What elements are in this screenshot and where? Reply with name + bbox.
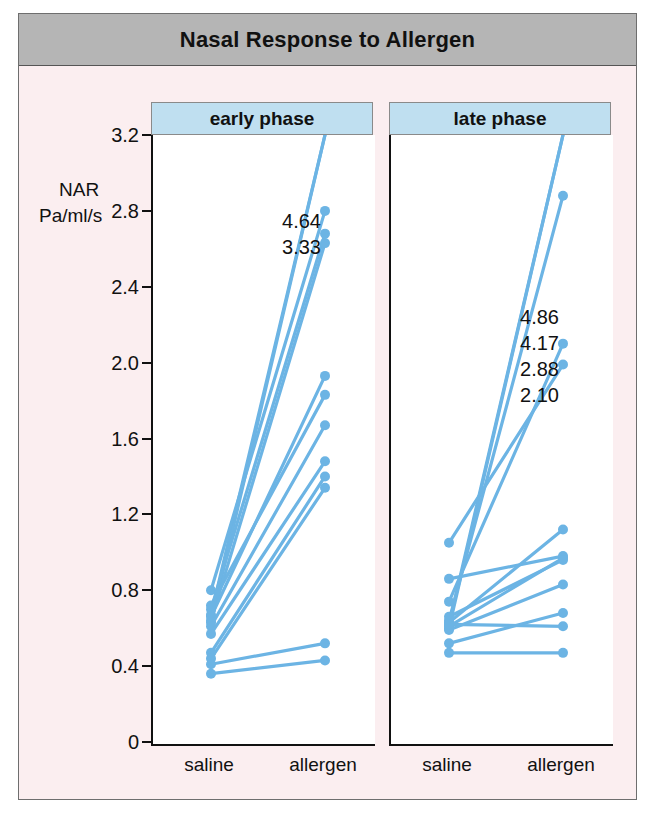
late-phase-offscale-values: 4.864.172.882.10 [520,304,559,408]
panel-early-phase-title: early phase [210,108,315,130]
data-point-saline [206,669,216,679]
y-tick-mark [142,210,151,212]
data-point-allergen [558,621,568,631]
data-point-allergen [320,655,330,665]
data-point-allergen [320,483,330,493]
data-point-allergen [320,390,330,400]
data-point-allergen [558,339,568,349]
y-tick-label: 2.8 [93,199,139,222]
x-tick-saline-late: saline [422,754,472,776]
y-tick-mark [142,741,151,743]
data-point-allergen [320,471,330,481]
offscale-value-label: 4.17 [520,330,559,356]
figure-frame: Nasal Response to Allergen NAR Pa/ml/s 3… [18,13,637,800]
y-tick-label: 1.2 [93,503,139,526]
page-title: Nasal Response to Allergen [180,27,475,53]
y-tick-label: 0 [93,731,139,754]
panel-early-phase-header: early phase [151,102,373,135]
early-phase-offscale-values: 4.643.33 [282,208,321,260]
data-point-allergen [558,525,568,535]
data-point-saline [444,597,454,607]
y-tick-label: 1.6 [93,427,139,450]
panel-late-phase-plot [389,135,613,746]
data-point-saline [206,659,216,669]
y-tick-mark [142,362,151,364]
y-tick-mark [142,134,151,136]
x-tick-allergen-early: allergen [289,754,357,776]
data-point-saline [444,638,454,648]
y-tick-mark [142,665,151,667]
subject-line [211,234,325,610]
plot-area: NAR Pa/ml/s 3.22.82.42.01.61.20.80.40 ea… [19,66,636,800]
subject-line [449,624,563,626]
y-tick-mark [142,286,151,288]
data-point-allergen [320,238,330,248]
data-point-allergen [558,580,568,590]
y-tick-label: 2.0 [93,351,139,374]
y-tick-label: 0.8 [93,579,139,602]
offscale-value-label: 3.33 [282,234,321,260]
panel-early-phase-plot [151,135,375,746]
data-point-saline [444,538,454,548]
subject-line [211,211,325,590]
data-point-saline [444,619,454,629]
data-point-allergen [320,206,330,216]
offscale-value-label: 4.64 [282,208,321,234]
y-axis-tick-labels: 3.22.82.42.01.61.20.80.40 [87,66,139,800]
data-point-allergen [558,555,568,565]
data-point-allergen [320,456,330,466]
data-point-allergen [558,360,568,370]
data-point-saline [444,574,454,584]
data-point-allergen [558,648,568,658]
y-tick-label: 3.2 [93,124,139,147]
data-point-allergen [320,420,330,430]
data-point-saline [444,648,454,658]
panel-late-phase-title: late phase [454,108,547,130]
subject-line [211,425,325,626]
data-point-allergen [558,608,568,618]
subject-line [211,376,325,617]
y-tick-label: 0.4 [93,655,139,678]
offscale-value-label: 2.10 [520,382,559,408]
data-point-allergen [320,229,330,239]
early-phase-series [153,135,373,742]
panel-late-phase-header: late phase [389,102,611,135]
y-tick-mark [142,438,151,440]
y-tick-label: 2.4 [93,275,139,298]
subject-line [449,196,563,621]
offscale-value-label: 2.88 [520,356,559,382]
data-point-allergen [320,371,330,381]
x-tick-saline-early: saline [184,754,234,776]
data-point-allergen [320,638,330,648]
y-tick-mark [142,513,151,515]
figure-title-band: Nasal Response to Allergen [19,14,636,66]
late-phase-series [391,135,611,742]
y-tick-mark [142,589,151,591]
data-point-saline [206,629,216,639]
x-tick-allergen-late: allergen [527,754,595,776]
offscale-value-label: 4.86 [520,304,559,330]
data-point-allergen [558,191,568,201]
data-point-saline [206,600,216,610]
